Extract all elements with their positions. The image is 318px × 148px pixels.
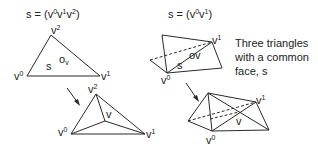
left-top-triangle: v2 v0 v1 s ov [14, 24, 111, 82]
svg-text:v: v [106, 108, 112, 120]
caption: Three triangles with a common face, s [234, 37, 309, 77]
left-arrow-icon [67, 88, 80, 106]
point-label: ov [59, 53, 69, 66]
svg-text:with a common: with a common [234, 51, 309, 63]
face-label: s [46, 60, 52, 72]
svg-text:v2: v2 [51, 24, 61, 36]
svg-text:s: s [177, 59, 183, 71]
svg-text:v: v [236, 115, 242, 127]
svg-text:v1: v1 [212, 34, 222, 46]
right-top-figure: v1 v0 s ov [150, 34, 222, 86]
svg-text:v0: v0 [14, 70, 24, 82]
left-bottom-triangle: v2 v0 v1 v [58, 83, 156, 140]
svg-text:v0: v0 [161, 74, 171, 86]
svg-text:v0: v0 [58, 126, 68, 138]
svg-text:v1: v1 [146, 128, 156, 140]
right-arrow-icon [186, 83, 199, 102]
svg-text:v2: v2 [88, 83, 98, 95]
svg-text:v1: v1 [101, 70, 111, 82]
svg-text:v1: v1 [256, 94, 266, 106]
right-formula: s = (v0v1) [168, 8, 212, 20]
svg-text:Three triangles: Three triangles [235, 37, 309, 49]
right-bottom-figure: v1 v0 v [188, 93, 269, 146]
svg-text:ov: ov [189, 49, 201, 61]
left-formula: s = (v0v1v2) [26, 8, 80, 20]
svg-text:v0: v0 [206, 134, 216, 146]
subdivision-diagram: s = (v0v1v2) v2 v0 v1 s ov v2 v0 v1 v s … [0, 0, 318, 148]
svg-text:face, s: face, s [235, 65, 268, 77]
